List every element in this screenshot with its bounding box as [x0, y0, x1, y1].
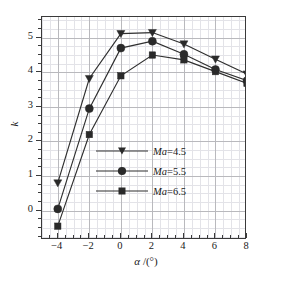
- legend-marker-triangle-down-icon: [96, 142, 148, 160]
- y-tick-label: 4: [17, 64, 33, 75]
- legend-item-ma45[interactable]: Ma=4.5: [96, 141, 200, 161]
- data-point-marker: [54, 180, 62, 187]
- series-layer: [42, 17, 246, 239]
- x-tick-minor: [80, 235, 81, 238]
- y-tick-minor: [38, 80, 41, 81]
- data-point-marker: [85, 105, 93, 113]
- x-tick-label: 8: [234, 240, 258, 251]
- y-axis-title: k: [8, 122, 20, 127]
- x-tick-minor: [112, 235, 113, 238]
- y-tick-minor: [38, 115, 41, 116]
- y-tick-label: 1: [17, 168, 33, 179]
- legend-marker-circle-icon: [96, 162, 148, 180]
- y-tick-minor: [38, 45, 41, 46]
- x-tick: [57, 233, 58, 238]
- data-point-marker: [55, 223, 61, 229]
- legend: Ma=4.5 Ma=5.5 Ma=6.5: [96, 141, 200, 201]
- x-tick-minor: [238, 235, 239, 238]
- x-tick-label: 4: [171, 240, 195, 251]
- y-tick: [36, 210, 41, 211]
- y-tick: [36, 140, 41, 141]
- data-point-marker: [212, 68, 218, 74]
- y-tick-label: 5: [17, 30, 33, 41]
- data-point-marker: [149, 52, 155, 58]
- y-tick: [36, 37, 41, 38]
- y-tick-minor: [38, 97, 41, 98]
- x-tick-minor: [41, 235, 42, 238]
- x-tick-minor: [167, 235, 168, 238]
- x-tick-minor: [207, 235, 208, 238]
- x-tick-label: −2: [76, 240, 100, 251]
- legend-item-ma65[interactable]: Ma=6.5: [96, 181, 200, 201]
- legend-label-ma65: Ma=6.5: [148, 186, 186, 197]
- y-tick-minor: [38, 19, 41, 20]
- legend-item-ma55[interactable]: Ma=5.5: [96, 161, 200, 181]
- y-tick-minor: [38, 123, 41, 124]
- y-tick-label: 0: [17, 203, 33, 214]
- y-tick: [36, 71, 41, 72]
- legend-marker-square-icon: [96, 182, 148, 200]
- data-point-marker: [180, 41, 188, 48]
- y-tick-minor: [38, 236, 41, 237]
- x-tick-minor: [175, 235, 176, 238]
- data-point-marker: [244, 80, 246, 86]
- x-tick-label: 2: [139, 240, 163, 251]
- y-tick-minor: [38, 227, 41, 228]
- chart-figure: −4−202468012345 α /(°) k Ma=4.5 Ma=5.5 M…: [0, 0, 292, 292]
- x-tick-label: 0: [108, 240, 132, 251]
- data-point-marker: [211, 56, 219, 63]
- y-tick-minor: [38, 132, 41, 133]
- y-tick: [36, 175, 41, 176]
- y-tick-minor: [38, 28, 41, 29]
- y-tick-minor: [38, 201, 41, 202]
- data-point-marker: [243, 71, 246, 78]
- data-point-marker: [181, 57, 187, 63]
- data-point-marker: [117, 44, 125, 52]
- x-tick-label: −4: [45, 240, 69, 251]
- x-tick: [88, 233, 89, 238]
- y-tick-minor: [38, 184, 41, 185]
- x-tick-minor: [199, 235, 200, 238]
- legend-label-ma55: Ma=5.5: [148, 166, 186, 177]
- x-tick-minor: [191, 235, 192, 238]
- x-tick-minor: [222, 235, 223, 238]
- x-axis-units: /(°): [140, 255, 158, 267]
- x-tick-minor: [159, 235, 160, 238]
- x-tick-minor: [49, 235, 50, 238]
- data-point-marker: [86, 131, 92, 137]
- y-tick-label: 3: [17, 99, 33, 110]
- x-tick-minor: [104, 235, 105, 238]
- data-point-marker: [148, 37, 156, 45]
- x-tick: [214, 233, 215, 238]
- data-point-marker: [54, 205, 62, 213]
- x-tick-minor: [128, 235, 129, 238]
- x-tick-minor: [73, 235, 74, 238]
- x-tick-minor: [65, 235, 66, 238]
- y-tick: [36, 106, 41, 107]
- x-tick: [246, 233, 247, 238]
- y-tick-minor: [38, 54, 41, 55]
- x-tick-minor: [96, 235, 97, 238]
- y-tick-minor: [38, 89, 41, 90]
- x-tick-minor: [144, 235, 145, 238]
- x-tick: [183, 233, 184, 238]
- y-tick-minor: [38, 192, 41, 193]
- y-tick-minor: [38, 149, 41, 150]
- x-tick-minor: [230, 235, 231, 238]
- x-axis-title: α /(°): [0, 255, 292, 267]
- x-tick-minor: [136, 235, 137, 238]
- y-tick-minor: [38, 158, 41, 159]
- y-tick-minor: [38, 63, 41, 64]
- legend-label-ma45: Ma=4.5: [148, 146, 186, 157]
- y-tick-minor: [38, 218, 41, 219]
- y-tick-label: 2: [17, 133, 33, 144]
- x-tick: [151, 233, 152, 238]
- x-tick: [120, 233, 121, 238]
- data-point-marker: [85, 75, 93, 82]
- data-point-marker: [118, 73, 124, 79]
- x-tick-label: 6: [202, 240, 226, 251]
- y-tick-minor: [38, 166, 41, 167]
- plot-area: [41, 16, 246, 239]
